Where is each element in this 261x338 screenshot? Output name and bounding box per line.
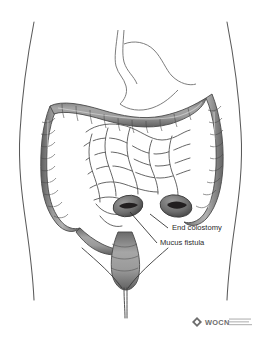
logo-tagline [229, 319, 252, 326]
illustration-canvas: End colostomy Mucus fistula WOCN [0, 0, 261, 338]
anatomy-illustration: End colostomy Mucus fistula WOCN [0, 0, 261, 338]
label-end-colostomy: End colostomy [172, 223, 222, 232]
rectum [111, 232, 140, 290]
logo-wordmark: WOCN [205, 318, 230, 327]
label-mucus-fistula: Mucus fistula [160, 238, 205, 247]
